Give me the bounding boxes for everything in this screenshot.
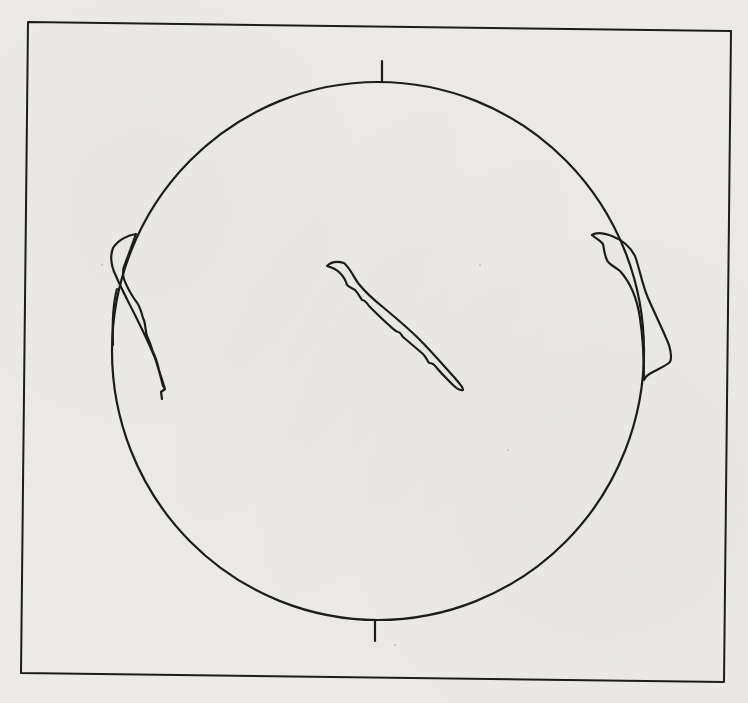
disk-filament [327, 262, 463, 390]
speck [394, 644, 396, 646]
figure-frame [21, 22, 731, 682]
right-limb-prominence [592, 233, 671, 380]
speck [479, 264, 481, 266]
solar-disk [112, 82, 644, 620]
left-limb-prominence [111, 234, 165, 399]
speck [101, 264, 103, 266]
speck [507, 449, 508, 450]
solar-disk-figure [0, 0, 748, 703]
